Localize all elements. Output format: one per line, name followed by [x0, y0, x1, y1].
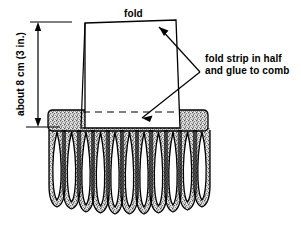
instruction-line-2: and glue to comb [205, 65, 289, 76]
instruction-line-1: fold strip in half [205, 53, 282, 64]
label-fold-instruction: fold strip in halfand glue to comb [205, 53, 289, 77]
diagram-canvas [0, 0, 301, 227]
label-fold: fold [124, 8, 143, 20]
label-height-dimension: about 8 cm (3 in.) [15, 24, 27, 124]
craft-diagram-figure: fold fold strip in halfand glue to comb … [0, 0, 301, 227]
paper-strip-group [81, 20, 180, 128]
